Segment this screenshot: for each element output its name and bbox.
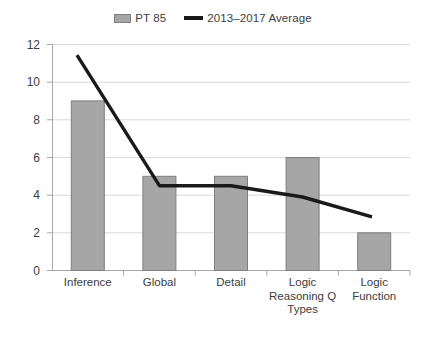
bar-logic-reasoning	[286, 158, 319, 271]
y-tick-label-6: 6	[6, 151, 40, 165]
bar-detail	[215, 176, 248, 270]
x-axis-ticks	[124, 271, 410, 276]
y-tick-label-4: 4	[6, 188, 40, 202]
bar-global	[143, 176, 176, 270]
chart-container: PT 85 2013–2017 Average	[0, 0, 426, 338]
x-tick-label-logic-function: Logic Function	[338, 276, 410, 303]
y-tick-label-0: 0	[6, 264, 40, 278]
x-tick-label-detail: Detail	[195, 276, 267, 290]
x-tick-label-inference: Inference	[52, 276, 124, 290]
bar-logic-function	[358, 233, 391, 271]
y-tick-label-10: 10	[6, 75, 40, 89]
bar-inference	[71, 101, 104, 271]
x-tick-label-logic-reasoning: Logic Reasoning Q Types	[267, 276, 339, 317]
y-axis-ticks	[47, 45, 52, 271]
y-tick-label-2: 2	[6, 226, 40, 240]
y-tick-label-12: 12	[6, 38, 40, 52]
y-tick-label-8: 8	[6, 113, 40, 127]
x-tick-label-global: Global	[124, 276, 196, 290]
